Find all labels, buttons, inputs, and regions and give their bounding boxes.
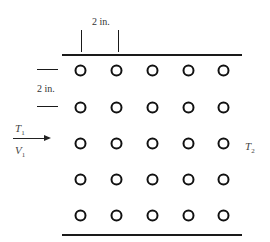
- tube: [147, 138, 159, 150]
- tube: [147, 65, 159, 77]
- tube: [75, 174, 87, 186]
- tube: [75, 102, 87, 114]
- tube: [75, 210, 87, 222]
- inlet-velocity-symbol: V: [15, 144, 22, 156]
- inlet-velocity-label: V1: [15, 145, 25, 159]
- tube: [75, 138, 87, 150]
- tube: [183, 210, 195, 222]
- outlet-temperature-label: T2: [245, 141, 255, 155]
- inlet-temperature-label: T1: [15, 123, 25, 137]
- top-wall: [62, 54, 242, 56]
- transverse-spacing-label: 2 in.: [92, 17, 110, 27]
- tube: [218, 65, 230, 77]
- tube: [218, 174, 230, 186]
- tube: [111, 65, 123, 77]
- tube: [111, 138, 123, 150]
- spacing-tick-right: [118, 30, 119, 52]
- flow-arrow-icon: [13, 138, 49, 139]
- tube: [183, 138, 195, 150]
- tube: [183, 65, 195, 77]
- inlet-temperature-subscript: 1: [21, 129, 25, 137]
- tube: [147, 210, 159, 222]
- tube: [111, 102, 123, 114]
- tube: [183, 174, 195, 186]
- tube: [218, 102, 230, 114]
- outlet-temperature-subscript: 2: [251, 147, 255, 155]
- tube: [75, 65, 87, 77]
- tube: [147, 174, 159, 186]
- tube: [111, 174, 123, 186]
- tube-bank-diagram: 2 in. 2 in. T1 V1 T2: [0, 0, 270, 242]
- tube: [111, 210, 123, 222]
- tube: [218, 210, 230, 222]
- tube: [183, 102, 195, 114]
- row-tick-bottom: [37, 106, 58, 107]
- tube: [218, 138, 230, 150]
- longitudinal-spacing-label: 2 in.: [37, 84, 55, 94]
- row-tick-top: [37, 69, 58, 70]
- spacing-tick-left: [81, 30, 82, 52]
- bottom-wall: [62, 234, 242, 236]
- tube: [147, 102, 159, 114]
- inlet-velocity-subscript: 1: [22, 151, 26, 159]
